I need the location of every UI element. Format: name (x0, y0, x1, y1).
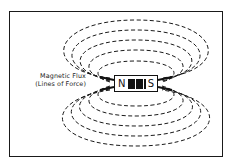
flux-line-top-3 (80, 40, 192, 80)
flux-label: Magnetic Flux (Lines of Force) (24, 72, 86, 88)
core-block (144, 79, 146, 89)
flux-line-bottom-3 (80, 88, 193, 126)
flux-line-top-1 (64, 20, 209, 78)
flux-label-line2: (Lines of Force) (24, 80, 86, 88)
bar-magnet: N S (114, 75, 158, 92)
flux-label-line1: Magnetic Flux (24, 72, 86, 80)
magnet-core (128, 79, 146, 89)
north-pole-label: N (118, 78, 125, 89)
south-pole-label: S (148, 78, 154, 89)
core-block (136, 79, 143, 89)
core-block (128, 79, 135, 89)
